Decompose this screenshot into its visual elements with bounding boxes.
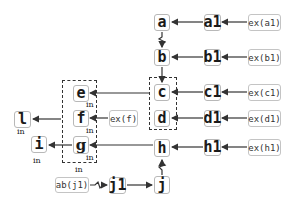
node-f[interactable]: f — [73, 110, 89, 127]
label-in-l: in — [17, 128, 25, 136]
node-ex-f[interactable]: ex(f) — [109, 110, 138, 127]
node-j[interactable]: j — [154, 176, 170, 194]
node-c1[interactable]: c1 — [204, 84, 221, 101]
node-g[interactable]: g — [73, 136, 89, 154]
node-ex-h1[interactable]: ex(h1) — [248, 139, 281, 156]
node-ex-a1[interactable]: ex(a1) — [248, 14, 281, 31]
label-in-e: in — [86, 101, 94, 109]
node-ex-b1[interactable]: ex(b1) — [248, 49, 281, 66]
node-ex-d1[interactable]: ex(d1) — [248, 110, 281, 127]
node-a[interactable]: a — [154, 14, 170, 31]
node-d[interactable]: d — [154, 110, 170, 127]
node-ex-c1[interactable]: ex(c1) — [248, 84, 281, 101]
label-in-g: in — [86, 154, 94, 162]
node-j1[interactable]: j1 — [109, 177, 126, 194]
node-d1[interactable]: d1 — [204, 110, 221, 127]
node-a1[interactable]: a1 — [204, 14, 221, 31]
label-in-i: in — [33, 157, 41, 165]
node-b1[interactable]: b1 — [204, 49, 221, 66]
node-h[interactable]: h — [154, 139, 170, 157]
node-h1[interactable]: h1 — [204, 139, 221, 156]
label-in-f: in — [86, 127, 94, 135]
node-ab-j1[interactable]: ab(j1) — [55, 177, 89, 193]
node-l[interactable]: l — [14, 111, 31, 128]
node-b[interactable]: b — [154, 49, 170, 66]
node-i[interactable]: i — [31, 136, 47, 153]
label-in-group: in — [75, 166, 83, 174]
node-c[interactable]: c — [154, 84, 170, 101]
